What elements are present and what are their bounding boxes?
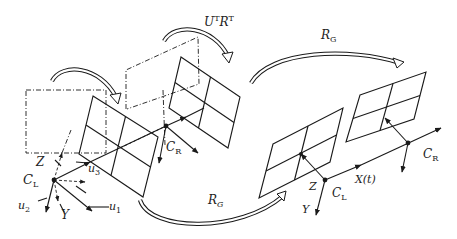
- rg-bottom-label: RG: [207, 193, 224, 209]
- curved-arrow-left-icon: [52, 69, 121, 104]
- rectified-right-camera: [385, 118, 410, 172]
- rg-top-label: RG: [320, 28, 336, 44]
- curved-arrow-rg-top-icon: [251, 54, 404, 83]
- diagram-canvas: UTRT Z CL u3 u2 u1 Y: [0, 0, 457, 239]
- right-z-label: Z: [308, 180, 317, 193]
- rectified-cr-label: CR: [423, 147, 439, 163]
- u3-label: u3: [88, 162, 100, 177]
- rectified-right-plane: [346, 72, 426, 142]
- baseline-label: X(t): [354, 173, 376, 186]
- right-y-label: Y: [302, 203, 311, 216]
- u2-label: u2: [18, 199, 30, 214]
- left-camera-label: CL: [23, 172, 39, 189]
- u1-label: u1: [109, 200, 121, 215]
- diagram-svg: UTRT Z CL u3 u2 u1 Y: [0, 0, 457, 239]
- left-z-label: Z: [35, 155, 45, 169]
- rectified-cl-label: CL: [332, 186, 347, 202]
- rotation-label: UTRT: [204, 14, 235, 29]
- right-image-plane: [169, 57, 240, 148]
- middle-cr-label: CR: [166, 140, 182, 156]
- left-y-label: Y: [61, 208, 70, 222]
- left-image-plane: [79, 96, 158, 197]
